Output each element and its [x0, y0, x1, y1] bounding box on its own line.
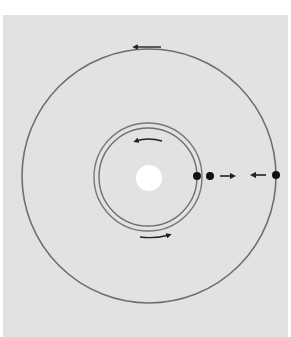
sun-icon [136, 165, 162, 191]
inner-orbit-bottom-arrow-icon [140, 235, 169, 238]
body-outer-icon [272, 171, 280, 179]
inner-orbit-top-arrow-icon [136, 139, 162, 141]
body-inner-b-icon [206, 172, 214, 180]
body-inner-a-icon [193, 172, 201, 180]
orbital-diagram [0, 0, 291, 337]
